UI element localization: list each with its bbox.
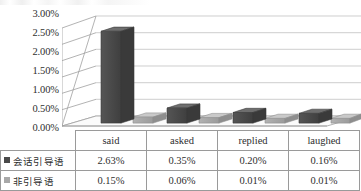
table-header-said: said bbox=[76, 131, 147, 151]
y-axis-tick-label: 1.50% bbox=[1, 65, 59, 76]
legend-label-lead: 会话引导语 bbox=[13, 156, 64, 167]
legend-swatch-lead bbox=[4, 157, 10, 163]
legend-swatch-non-lead bbox=[4, 177, 10, 183]
table-row: 会话引导语 2.63% 0.35% 0.20% 0.16% bbox=[1, 151, 360, 171]
table-header-asked: asked bbox=[147, 131, 218, 151]
bar-asked-lead bbox=[167, 104, 200, 123]
y-axis-tick-label: 3.00% bbox=[1, 8, 59, 19]
bar-said-lead bbox=[101, 27, 134, 123]
table-cell: 2.63% bbox=[76, 151, 147, 171]
table-row: 非引导语 0.15% 0.06% 0.01% 0.01% bbox=[1, 171, 360, 191]
table-cell: 0.01% bbox=[289, 171, 360, 191]
data-table: said asked replied laughed 会话引导语 2.63% 0… bbox=[0, 130, 360, 191]
y-axis: 3.00% 2.50% 2.00% 1.50% 1.00% 0.50% 0.00… bbox=[0, 8, 62, 134]
legend-item-non-lead[interactable]: 非引导语 bbox=[1, 171, 76, 191]
scan-artifact bbox=[0, 0, 361, 5]
table-cell: 0.01% bbox=[218, 171, 289, 191]
y-axis-tick-label: 0.50% bbox=[1, 103, 59, 114]
table-cell: 0.16% bbox=[289, 151, 360, 171]
y-axis-tick-label: 2.50% bbox=[1, 27, 59, 38]
table-header-laughed: laughed bbox=[289, 131, 360, 151]
plot-area bbox=[62, 8, 361, 134]
table-header-row: said asked replied laughed bbox=[1, 131, 360, 151]
table-cell: 0.35% bbox=[147, 151, 218, 171]
table-cell: 0.06% bbox=[147, 171, 218, 191]
legend-item-lead[interactable]: 会话引导语 bbox=[1, 151, 76, 171]
y-axis-tick-label: 2.00% bbox=[1, 46, 59, 57]
table-cell: 0.15% bbox=[76, 171, 147, 191]
table-corner-cell bbox=[1, 131, 76, 151]
bar-chart-figure: 3.00% 2.50% 2.00% 1.50% 1.00% 0.50% 0.00… bbox=[0, 0, 361, 191]
table-header-replied: replied bbox=[218, 131, 289, 151]
plot-svg bbox=[62, 8, 361, 134]
legend-label-non-lead: 非引导语 bbox=[13, 176, 54, 187]
table-cell: 0.20% bbox=[218, 151, 289, 171]
y-axis-tick-label: 1.00% bbox=[1, 84, 59, 95]
